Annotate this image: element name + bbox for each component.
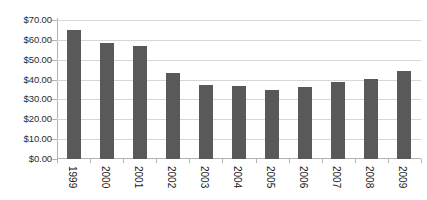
x-tick-label: 1999	[67, 166, 78, 200]
x-tick-mark	[256, 159, 257, 163]
x-tick-label: 2006	[298, 166, 309, 200]
bar[interactable]	[298, 87, 312, 159]
x-tick-label: 2009	[397, 166, 408, 200]
bar[interactable]	[232, 86, 246, 159]
x-tick-label: 2000	[100, 166, 111, 200]
x-tick-mark	[322, 159, 323, 163]
y-tick-label: $60.00	[0, 35, 52, 45]
x-tick-label: 2005	[265, 166, 276, 200]
y-tick-label: $30.00	[0, 94, 52, 104]
y-tick-label: $0.00	[0, 154, 52, 164]
bar[interactable]	[331, 82, 345, 159]
x-tick-mark	[355, 159, 356, 163]
x-tick-mark	[222, 159, 223, 163]
y-tick-mark	[52, 139, 57, 140]
y-tick-mark	[52, 80, 57, 81]
y-tick-mark	[52, 119, 57, 120]
x-tick-mark	[57, 159, 58, 163]
y-tick-label: $10.00	[0, 134, 52, 144]
y-tick-mark	[52, 99, 57, 100]
x-tick-mark	[189, 159, 190, 163]
x-tick-label: 2003	[199, 166, 210, 200]
x-tick-label: 2007	[331, 166, 342, 200]
bar[interactable]	[100, 43, 114, 159]
bar[interactable]	[364, 79, 378, 159]
bar[interactable]	[166, 73, 180, 159]
x-tick-mark	[156, 159, 157, 163]
x-tick-label: 2004	[232, 166, 243, 200]
gridline	[57, 20, 421, 21]
gridline	[57, 40, 421, 41]
bar[interactable]	[133, 46, 147, 159]
y-tick-mark	[52, 20, 57, 21]
x-tick-mark	[123, 159, 124, 163]
x-tick-mark	[289, 159, 290, 163]
plot-area	[57, 20, 421, 159]
y-tick-label: $70.00	[0, 15, 52, 25]
y-tick-label: $40.00	[0, 75, 52, 85]
x-tick-mark	[90, 159, 91, 163]
x-tick-mark	[421, 159, 422, 163]
bar[interactable]	[265, 90, 279, 160]
x-tick-label: 2001	[133, 166, 144, 200]
y-axis: $0.00$10.00$20.00$30.00$40.00$50.00$60.0…	[0, 0, 52, 200]
x-tick-label: 2008	[364, 166, 375, 200]
bar[interactable]	[67, 30, 81, 159]
bar[interactable]	[397, 71, 411, 159]
bar[interactable]	[199, 85, 213, 159]
y-tick-label: $50.00	[0, 55, 52, 65]
y-tick-mark	[52, 60, 57, 61]
y-tick-mark	[52, 40, 57, 41]
y-tick-label: $20.00	[0, 114, 52, 124]
x-tick-label: 2002	[166, 166, 177, 200]
bar-chart: $0.00$10.00$20.00$30.00$40.00$50.00$60.0…	[0, 0, 427, 200]
x-tick-mark	[388, 159, 389, 163]
